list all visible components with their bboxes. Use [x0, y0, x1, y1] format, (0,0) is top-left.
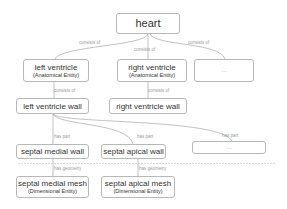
edge-label-lvw-more: has part — [222, 133, 238, 138]
node-type: (Dimensional Entity) — [113, 188, 162, 195]
node-label: heart — [135, 19, 160, 28]
node-label: right ventricle wall — [116, 102, 180, 111]
node-type: (Anatomical Entity) — [129, 72, 175, 79]
node-more-ventricles[interactable]: ... — [194, 59, 254, 82]
edge-label-smw-smm: has geometry — [54, 166, 81, 171]
edge-heart-more — [150, 34, 225, 59]
edge-label-lvw-saw: has part — [137, 134, 153, 139]
edge-label-lv-lvw: consists of — [54, 88, 75, 93]
node-left-ventricle[interactable]: left ventricle (Anatomical Entity) — [23, 59, 89, 82]
edge-lvw-saw — [53, 114, 133, 144]
edge-label-heart-right: consists of — [134, 47, 155, 52]
node-heart[interactable]: heart — [116, 13, 180, 34]
edge-label-lvw-smw: has part — [54, 134, 70, 139]
edge-label-heart-left: consists of — [79, 40, 100, 45]
edge-label-rv-rvw: consists of — [148, 88, 169, 93]
edge-label-saw-sam: has geometry — [139, 166, 166, 171]
node-more-parts[interactable]: ... — [192, 141, 266, 154]
node-label: septal medial wall — [21, 147, 84, 156]
node-septal-apical-wall[interactable]: septal apical wall — [101, 144, 166, 159]
node-label: septal medial mesh — [18, 179, 87, 188]
node-septal-medial-wall[interactable]: septal medial wall — [16, 144, 89, 159]
node-label: ... — [226, 143, 231, 152]
node-label: right ventricle — [128, 63, 176, 72]
edge-label-heart-more: consists of — [188, 40, 209, 45]
node-septal-apical-mesh[interactable]: septal apical mesh (Dimensional Entity) — [101, 176, 175, 198]
node-label: ... — [221, 66, 226, 75]
node-label: left ventricle — [35, 63, 78, 72]
node-label: septal apical wall — [103, 147, 163, 156]
node-left-ventricle-wall[interactable]: left ventricle wall — [16, 98, 89, 114]
node-type: (Anatomical Entity) — [33, 72, 79, 79]
node-septal-medial-mesh[interactable]: septal medial mesh (Dimensional Entity) — [16, 176, 89, 198]
node-type: (Dimensional Entity) — [28, 188, 77, 195]
node-label: septal apical mesh — [105, 179, 171, 188]
node-label: left ventricle wall — [23, 102, 82, 111]
node-right-ventricle-wall[interactable]: right ventricle wall — [109, 98, 187, 114]
node-right-ventricle[interactable]: right ventricle (Anatomical Entity) — [117, 59, 187, 82]
